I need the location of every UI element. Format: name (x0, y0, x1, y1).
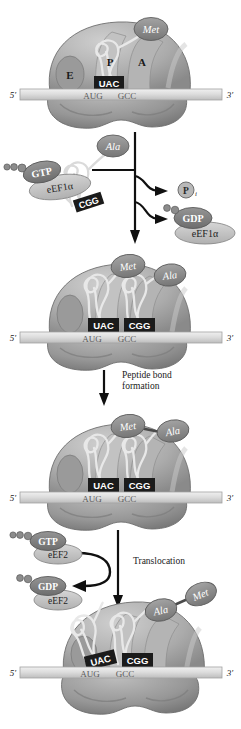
peptide-bond-formation-label: Peptide bond formation (122, 370, 172, 392)
amino-acid-ala: Ala (97, 135, 129, 157)
codon-aug: AUG (83, 91, 103, 101)
peptide-bond-arrow (99, 370, 109, 406)
gdp-eef1a-complex: eEF1α GDP (164, 205, 235, 244)
svg-text:AUG: AUG (80, 669, 100, 679)
svg-text:3′: 3′ (226, 668, 235, 678)
five-prime-label: 5′ (10, 90, 18, 100)
inorganic-phosphate: P i (178, 182, 197, 198)
svg-text:CGG: CGG (129, 480, 151, 491)
svg-text:CGG: CGG (129, 320, 151, 331)
branch-arrow-pi (135, 176, 168, 196)
svg-text:UAC: UAC (93, 320, 114, 331)
anticodon-uac: UAC (88, 478, 119, 492)
a-site-label: A (138, 56, 146, 68)
three-prime-label: 3′ (226, 90, 235, 100)
svg-text:3′: 3′ (226, 333, 235, 343)
translocation-label: Translocation (133, 556, 185, 567)
svg-text:GDP: GDP (38, 582, 58, 592)
reaction-arrow-main (130, 132, 140, 244)
panel-initiation: Met UAC E P A AUG GCC 5′ 3′ (0, 0, 241, 130)
svg-text:GCC: GCC (118, 334, 137, 344)
anticodon-uac: UAC (88, 318, 119, 332)
svg-text:eEF2: eEF2 (48, 596, 68, 606)
svg-text:eEF1α: eEF1α (192, 228, 219, 239)
svg-text:GDP: GDP (182, 213, 203, 224)
mrna-strand: AUG GCC (20, 667, 222, 679)
svg-text:UAC: UAC (93, 480, 114, 491)
panel-both-trnas: Met Ala UAC CGG AUG GCC 5′ 3′ (0, 244, 241, 372)
anticodon-cgg: CGG (122, 653, 153, 667)
svg-text:5′: 5′ (10, 668, 18, 678)
panel-aminoacyl-delivery: Ala CGG eEF1α GTP (0, 128, 241, 250)
anticodon-cgg: CGG (124, 478, 155, 492)
gtp-eef2-complex: eEF2 GTP (10, 532, 82, 565)
ala-label: Ala (105, 141, 121, 152)
panel-translocated: Ala Met UAC CGG AUG GCC 5′ 3′ (0, 612, 241, 729)
mrna-strand: AUG GCC (20, 492, 222, 504)
branch-arrow-gdp (135, 202, 168, 224)
svg-text:CGG: CGG (127, 655, 149, 666)
mrna-strand: AUG GCC (20, 332, 222, 344)
svg-text:GTP: GTP (38, 537, 58, 547)
svg-text:5′: 5′ (10, 493, 18, 503)
svg-text:GCC: GCC (116, 669, 135, 679)
svg-text:i: i (195, 190, 197, 198)
svg-text:eEF2: eEF2 (48, 550, 68, 560)
e-site-label: E (66, 69, 73, 81)
met-label: Met (142, 24, 160, 35)
svg-text:GCC: GCC (118, 494, 137, 504)
svg-text:AUG: AUG (82, 494, 102, 504)
anticodon-cgg: CGG (124, 318, 155, 332)
p-site-label: P (107, 56, 114, 68)
svg-text:AUG: AUG (82, 334, 102, 344)
amino-acid-met: Met (134, 18, 168, 41)
codon-gcc: GCC (118, 91, 137, 101)
translocation-arrow-main (113, 530, 123, 608)
translation-elongation-figure: Met UAC E P A AUG GCC 5′ 3′ (0, 0, 241, 729)
anticodon-uac: UAC (94, 76, 124, 89)
svg-text:5′: 5′ (10, 333, 18, 343)
gdp-eef2-complex: eEF2 GDP (17, 575, 82, 610)
panel-dipeptide: Met Ala UAC CGG AUG GCC 5′ 3′ (0, 404, 241, 532)
svg-text:P: P (183, 186, 189, 196)
svg-text:3′: 3′ (226, 493, 235, 503)
svg-text:UAC: UAC (99, 78, 120, 89)
svg-text:Ala: Ala (161, 269, 178, 282)
mrna-strand: AUG GCC (20, 89, 222, 101)
